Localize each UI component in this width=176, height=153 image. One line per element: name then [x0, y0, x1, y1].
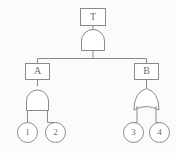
and-gate-icon	[82, 30, 105, 51]
basic-event-3-node[interactable]: 3	[124, 123, 144, 143]
top-event-node[interactable]: T	[81, 9, 106, 26]
intermediate-event-b-node[interactable]: B	[135, 64, 159, 80]
basic-event-1-label: 1	[25, 127, 30, 137]
basic-event-4-label: 4	[157, 127, 162, 137]
intermediate-event-b-label: B	[143, 65, 150, 76]
basic-event-4-node[interactable]: 4	[150, 123, 170, 143]
basic-event-2-label: 2	[53, 127, 58, 137]
or-gate-icon	[134, 89, 159, 111]
basic-event-3-label: 3	[131, 127, 136, 137]
intermediate-event-a-label: A	[34, 65, 42, 76]
fault-tree-diagram: T A 1 2	[0, 0, 176, 153]
intermediate-event-a-node[interactable]: A	[26, 64, 50, 80]
gate-b-or[interactable]	[134, 89, 159, 111]
basic-event-2-node[interactable]: 2	[46, 123, 66, 143]
gate-a-and[interactable]	[27, 90, 49, 111]
gate-top-and[interactable]	[82, 30, 105, 51]
and-gate-icon	[27, 90, 49, 111]
basic-event-1-node[interactable]: 1	[18, 123, 38, 143]
fault-tree-canvas: T A 1 2	[0, 0, 176, 153]
top-event-label: T	[90, 11, 96, 22]
